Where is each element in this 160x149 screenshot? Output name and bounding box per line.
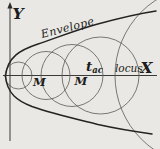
locus-label: locus (115, 62, 143, 74)
family-circle (115, 0, 160, 149)
center-label-m-right: M (74, 74, 89, 88)
figure-canvas: Y X Envelope tac locus M M (0, 0, 160, 149)
center-label-m-left: M (32, 75, 47, 89)
envelope-label: Envelope (39, 15, 96, 42)
tac-subscript: ac (92, 65, 104, 75)
tac-locus-label: tac (86, 58, 104, 76)
y-axis-label: Y (13, 4, 26, 23)
textbook-figure: Y X Envelope tac locus M M (0, 0, 160, 149)
